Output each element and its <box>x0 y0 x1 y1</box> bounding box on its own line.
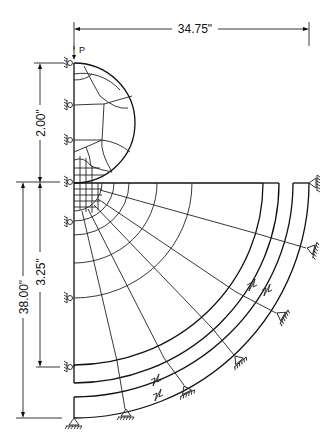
semicircle-mesh <box>74 63 135 183</box>
dimension-upper-height: 2.00" <box>34 63 64 183</box>
load-label: P <box>79 45 85 55</box>
pin-support-icon <box>309 175 320 192</box>
load-arrow: P <box>72 45 85 60</box>
roller-support-icon <box>64 361 73 372</box>
dimension-total-height: 38.00" <box>16 182 62 418</box>
roller-support-icon <box>64 216 73 227</box>
dimension-width-label: 34.75" <box>178 22 212 36</box>
pin-support-icon <box>228 351 248 370</box>
quarter-circle-mesh <box>74 183 263 365</box>
dimension-upper-height-label: 2.00" <box>34 109 48 137</box>
pin-support-icon <box>305 240 320 259</box>
roller-support-icon <box>64 134 73 145</box>
roller-supports <box>64 57 73 372</box>
dimension-width: 34.75" <box>74 22 309 50</box>
dimension-total-height-label: 38.00" <box>17 280 31 314</box>
roller-support-icon <box>64 176 73 187</box>
pin-support-icon <box>65 418 82 429</box>
outer-bands <box>74 183 309 418</box>
roller-support-icon <box>64 292 73 303</box>
fem-mesh-diagram: 34.75" P 2.00" 3.25" 38.00" <box>0 0 335 442</box>
roller-support-icon <box>64 99 73 110</box>
pin-support-icon <box>273 306 291 326</box>
dimension-inner-height-label: 3.25" <box>34 258 48 286</box>
roller-support-icon <box>64 57 73 68</box>
break-icon <box>153 389 163 401</box>
